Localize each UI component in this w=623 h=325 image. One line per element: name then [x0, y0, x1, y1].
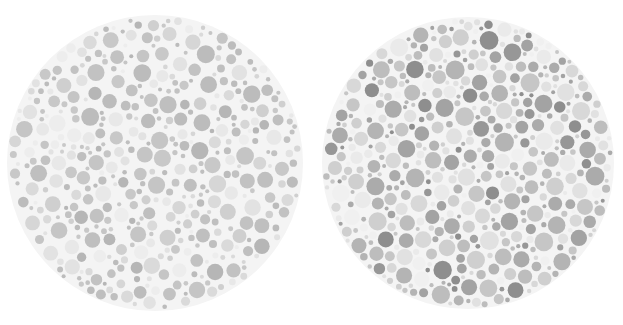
plate-dot [461, 142, 465, 146]
plate-dot [385, 251, 395, 261]
plate-dot [432, 30, 436, 34]
plate-dot [434, 185, 450, 201]
plate-dot [159, 96, 176, 113]
plate-dot [107, 269, 116, 278]
plate-dot [162, 170, 167, 175]
plate-dot [154, 197, 159, 202]
plate-dot [109, 112, 123, 126]
plate-dot [511, 148, 524, 161]
plate-left [5, 13, 305, 313]
plate-dot [441, 281, 445, 285]
plate-dot [422, 79, 434, 91]
plate-dot [136, 221, 140, 225]
plate-dot [197, 199, 205, 207]
plate-dot [121, 101, 131, 111]
plate-dot [140, 181, 145, 186]
plate-dot [384, 93, 392, 101]
plate-dot [494, 294, 504, 304]
plate-dot [472, 298, 481, 307]
plate-dot [225, 186, 238, 199]
plate-dot [145, 283, 149, 287]
plate-dot [117, 264, 124, 271]
plate-dot [189, 282, 205, 298]
plate-dot [592, 228, 596, 232]
plate-dot [205, 260, 209, 264]
plate-dot [509, 85, 515, 91]
plate-dot [200, 275, 204, 279]
plate-dot [102, 94, 116, 108]
plate-dot [113, 260, 118, 265]
plate-dot [68, 91, 80, 103]
plate-dot [217, 33, 228, 44]
plate-dot [351, 190, 355, 194]
plate-dot [111, 75, 124, 88]
plate-dot [480, 31, 499, 50]
plate-dot [425, 152, 441, 168]
plate-dot [416, 227, 420, 231]
plate-dot [458, 169, 475, 186]
plate-dot [142, 32, 153, 43]
plate-dot [174, 164, 185, 175]
plate-dot [594, 153, 606, 165]
plate-dot [358, 71, 366, 79]
plate-dot [189, 230, 193, 234]
plate-dot [490, 134, 494, 138]
plate-dot [129, 127, 139, 137]
plate-dot [273, 114, 284, 125]
plate-dot [252, 67, 257, 72]
plate-dot [399, 215, 414, 230]
plate-dot [416, 142, 422, 148]
plate-dot [209, 136, 221, 148]
plate-dot [595, 136, 600, 141]
plate-dot [568, 228, 573, 233]
plate-right [320, 15, 616, 311]
plate-dot [325, 143, 338, 156]
plate-dot [441, 142, 445, 146]
plate-dot [184, 51, 188, 55]
plate-dot [464, 150, 477, 163]
plate-dot [67, 151, 76, 160]
plate-dot [549, 63, 559, 73]
plate-dot [37, 207, 44, 214]
plate-dot [439, 35, 452, 48]
plate-dot [541, 81, 551, 91]
plate-dot [394, 245, 399, 250]
plate-dot [141, 195, 150, 204]
plate-dot [85, 232, 101, 248]
plate-dot [225, 155, 235, 165]
plate-dot [399, 81, 405, 87]
plate-dot [294, 194, 298, 198]
plate-dot [207, 264, 224, 281]
plate-dot [194, 114, 211, 131]
plate-dot [80, 145, 84, 149]
plate-dot [83, 36, 96, 49]
plate-dot [189, 79, 193, 83]
plate-dot [198, 161, 203, 166]
plate-dot [437, 201, 447, 211]
plate-dot [513, 251, 529, 267]
plate-dot [532, 119, 544, 131]
plate-dot [95, 50, 102, 57]
plate-dot [336, 215, 342, 221]
plate-dot [348, 137, 352, 141]
plate-dot [594, 205, 605, 216]
plate-dot [348, 201, 354, 207]
plate-dot [353, 228, 358, 233]
plate-dot [462, 162, 467, 167]
plate-dot [461, 275, 465, 279]
plate-dot [239, 134, 249, 144]
plate-dot [427, 262, 432, 267]
plate-dot [426, 179, 431, 184]
plate-dot [214, 93, 219, 98]
plate-dot [354, 192, 370, 208]
plate-dot [454, 171, 458, 175]
plate-dot [449, 27, 454, 32]
plate-dot [18, 109, 22, 113]
plate-dot [181, 154, 186, 159]
plate-dot [259, 120, 269, 130]
plate-dot [556, 171, 561, 176]
plate-dot [519, 92, 523, 96]
plate-dot [87, 64, 104, 81]
plate-dot [475, 58, 488, 71]
plate-dot [480, 106, 491, 117]
